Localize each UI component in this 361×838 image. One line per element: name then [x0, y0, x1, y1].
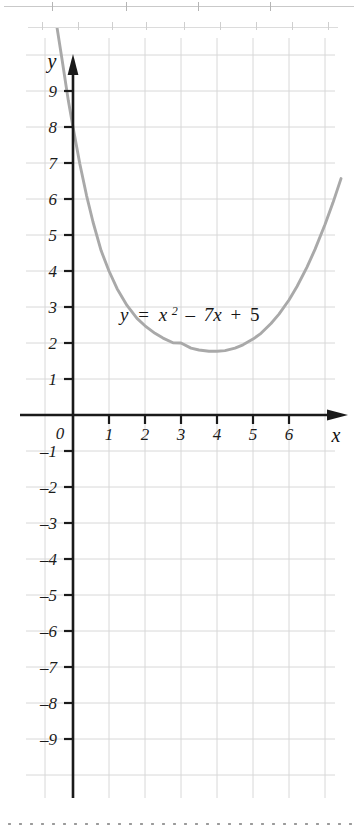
x-tick-label: 2	[141, 425, 150, 444]
y-tick-label: –8	[39, 694, 58, 713]
y-tick-label: –9	[39, 730, 58, 749]
table-border-tick	[52, 2, 53, 11]
equation-lhs: y	[118, 304, 129, 325]
equation-annotation: y = x 2 – 7x + 5	[118, 298, 260, 325]
y-tick-label: –5	[39, 586, 57, 605]
equation-exponent: 2	[172, 304, 178, 318]
equation-constant: 5	[250, 304, 260, 325]
equation-var: x	[158, 304, 168, 325]
x-tick-label: 1	[105, 425, 114, 444]
parabola-curve	[57, 28, 341, 351]
svg-text:y = x: y = x 2 – 7x + 5	[118, 298, 260, 325]
x-tick-label: 6	[285, 425, 294, 444]
y-tick-label: 3	[48, 298, 58, 317]
origin-label: 0	[56, 424, 65, 443]
y-tick-label: 8	[49, 118, 58, 137]
table-border-tick	[198, 2, 199, 11]
x-axis-tick-marks	[109, 415, 289, 424]
x-axis	[20, 410, 348, 421]
y-tick-label: –6	[39, 622, 58, 641]
table-border-fragment	[0, 2, 361, 18]
x-axis-arrowhead	[327, 410, 348, 421]
equation-minus: –	[185, 304, 196, 325]
y-axis-arrowhead	[68, 54, 79, 75]
vertical-gridlines	[45, 38, 325, 798]
chart-canvas: 9 8 7 6 5 4 3 2 1 –1 –2 –3 –4 –5 –6 –7 –…	[0, 28, 361, 810]
x-tick-label: 3	[176, 425, 186, 444]
y-tick-label: 1	[49, 370, 58, 389]
y-axis-label: y	[46, 50, 57, 73]
y-tick-label: 4	[49, 262, 58, 281]
equation-plus: +	[231, 304, 242, 325]
y-tick-label: –1	[39, 442, 57, 461]
table-border-horizontal-rule	[4, 6, 354, 7]
table-border-tick	[126, 2, 127, 11]
parabola-chart: 9 8 7 6 5 4 3 2 1 –1 –2 –3 –4 –5 –6 –7 –…	[0, 28, 361, 810]
dotted-page-rule	[4, 822, 357, 826]
table-border-tick	[270, 2, 271, 11]
y-tick-label: –4	[39, 550, 58, 569]
y-tick-label: –7	[39, 658, 59, 677]
y-tick-label: 2	[49, 334, 58, 353]
equation-equals: =	[138, 304, 149, 325]
x-axis-label: x	[331, 424, 341, 446]
y-tick-label: –3	[39, 514, 57, 533]
x-tick-label: 4	[213, 425, 222, 444]
y-axis	[68, 54, 79, 798]
x-tick-label: 5	[249, 425, 258, 444]
equation-linear-term: 7x	[204, 304, 223, 325]
x-axis-tick-labels: 0 1 2 3 4 5 6	[56, 424, 294, 444]
y-tick-label: 5	[49, 226, 58, 245]
y-tick-label: –2	[39, 478, 58, 497]
y-tick-label: 9	[49, 82, 58, 101]
y-tick-label: 6	[49, 190, 58, 209]
